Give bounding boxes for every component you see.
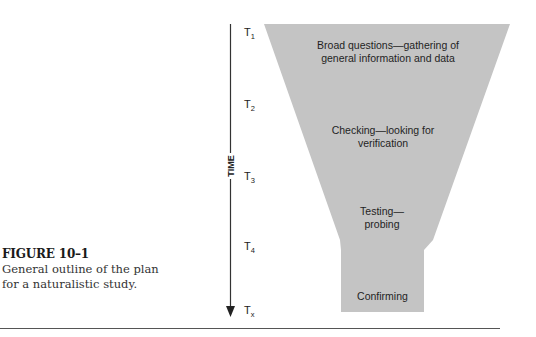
time-marker-t4: T4 xyxy=(244,240,255,255)
time-marker-base: T xyxy=(244,304,251,316)
stage-label-broad-questions: Broad questions—gathering of general inf… xyxy=(312,39,464,65)
time-marker-sub: 3 xyxy=(251,176,255,185)
funnel-shape xyxy=(264,24,510,312)
time-axis-label: TIME xyxy=(225,153,237,179)
stage-label-testing: Testing—probing xyxy=(352,205,412,231)
time-marker-sub: x xyxy=(251,310,255,319)
time-marker-t3: T3 xyxy=(244,170,255,185)
time-marker-sub: 1 xyxy=(251,32,255,41)
time-marker-t2: T2 xyxy=(244,98,255,113)
bottom-divider xyxy=(0,328,500,329)
time-marker-base: T xyxy=(244,26,251,38)
time-marker-tx: Tx xyxy=(244,304,254,319)
stage-label-confirming: Confirming xyxy=(341,290,424,303)
stage-label-checking: Checking—looking for verification xyxy=(324,124,442,150)
figure-title: FIGURE 10–1 xyxy=(2,247,89,261)
time-marker-base: T xyxy=(244,170,251,182)
time-axis-arrowhead xyxy=(226,306,235,317)
time-marker-t1: T1 xyxy=(244,26,255,41)
time-marker-base: T xyxy=(244,98,251,110)
time-marker-sub: 2 xyxy=(251,104,255,113)
time-marker-sub: 4 xyxy=(251,246,255,255)
figure-caption: General outline of the plan for a natura… xyxy=(2,262,172,292)
time-marker-base: T xyxy=(244,240,251,252)
